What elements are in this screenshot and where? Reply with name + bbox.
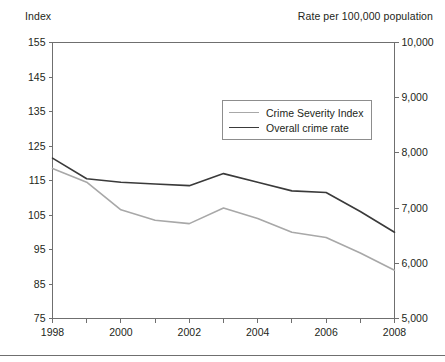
ytick-label-right: 10,000	[402, 37, 434, 48]
xtick-label: 2000	[96, 327, 146, 338]
legend-item-overall-crime-rate: Overall crime rate	[229, 120, 363, 135]
ytick-label-left: 95	[34, 244, 46, 255]
plot-area	[0, 0, 445, 362]
legend-swatch-light	[229, 112, 259, 113]
ytick-label-left: 105	[28, 210, 46, 221]
ytick-label-left: 135	[28, 106, 46, 117]
series-line-crime-severity-index	[53, 168, 395, 270]
legend-swatch-dark	[229, 127, 259, 128]
tick-marks	[49, 43, 399, 323]
xtick-label: 2004	[233, 327, 283, 338]
bottom-divider	[0, 355, 445, 356]
ytick-label-right: 8,000	[402, 147, 428, 158]
xtick-label: 2006	[301, 327, 351, 338]
ytick-label-left: 145	[28, 72, 46, 83]
ytick-label-right: 6,000	[402, 258, 428, 269]
ytick-label-right: 5,000	[402, 313, 428, 324]
ytick-label-right: 7,000	[402, 203, 428, 214]
xtick-label: 2008	[370, 327, 420, 338]
xtick-label: 2002	[164, 327, 214, 338]
ytick-label-left: 75	[34, 313, 46, 324]
legend-item-crime-severity-index: Crime Severity Index	[229, 105, 363, 120]
ytick-label-left: 125	[28, 141, 46, 152]
ytick-label-left: 155	[28, 37, 46, 48]
chart-figure: Index Rate per 100,000 population 758595…	[0, 0, 445, 362]
xtick-label: 1998	[28, 327, 78, 338]
ytick-label-right: 9,000	[402, 92, 428, 103]
chart-legend: Crime Severity Index Overall crime rate	[222, 100, 372, 140]
ytick-label-left: 115	[29, 175, 46, 186]
legend-label-crime-severity-index: Crime Severity Index	[266, 107, 363, 119]
ytick-label-left: 85	[34, 279, 46, 290]
series-lines	[53, 158, 395, 270]
legend-label-overall-crime-rate: Overall crime rate	[266, 122, 349, 134]
